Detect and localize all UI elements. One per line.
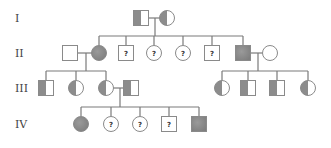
male-carrier-individual [124, 81, 139, 96]
male-carrier-individual [270, 81, 285, 96]
pedigree-diagram: IIIIIIIV ??????? [0, 0, 331, 148]
square-symbol-icon [39, 81, 54, 96]
female-unknown-individual: ? [147, 46, 162, 61]
female-unknown-individual: ? [176, 46, 191, 61]
square-symbol-icon [134, 11, 149, 26]
square-symbol-icon [63, 46, 78, 61]
square-symbol-icon [270, 81, 285, 96]
female-carrier-individual [99, 81, 114, 96]
female-affected-individual [92, 46, 107, 61]
circle-symbol-icon [215, 81, 230, 96]
square-symbol-icon [241, 81, 256, 96]
unknown-status-mark: ? [181, 50, 185, 58]
male-affected-individual [236, 46, 251, 61]
male-unaffected-individual [63, 46, 78, 61]
unknown-status-mark: ? [210, 50, 214, 58]
circle-symbol-icon [69, 81, 84, 96]
female-affected-individual [74, 117, 89, 132]
female-unknown-individual: ? [104, 117, 119, 132]
male-unknown-individual: ? [119, 46, 134, 61]
square-symbol-icon [124, 81, 139, 96]
male-carrier-individual [134, 11, 149, 26]
circle-symbol-icon [99, 81, 114, 96]
generation-labels: IIIIIIIV [15, 12, 28, 131]
unknown-status-mark: ? [167, 121, 171, 129]
generation-label: II [15, 47, 24, 60]
square-symbol-icon [192, 117, 207, 132]
male-carrier-individual [241, 81, 256, 96]
male-unknown-individual: ? [162, 117, 177, 132]
unknown-status-mark: ? [124, 50, 128, 58]
female-carrier-individual [301, 81, 316, 96]
female-carrier-individual [69, 81, 84, 96]
square-symbol-icon [236, 46, 251, 61]
circle-symbol-icon [74, 117, 89, 132]
unknown-status-mark: ? [109, 121, 113, 129]
unknown-status-mark: ? [138, 121, 142, 129]
male-carrier-individual [39, 81, 54, 96]
generation-label: I [15, 12, 19, 25]
relationship-lines [46, 18, 308, 117]
male-unknown-individual: ? [205, 46, 220, 61]
female-carrier-individual [215, 81, 230, 96]
circle-symbol-icon [92, 46, 107, 61]
female-unaffected-individual [263, 46, 278, 61]
generation-label: IV [15, 118, 28, 131]
unknown-status-mark: ? [152, 50, 156, 58]
circle-symbol-icon [301, 81, 316, 96]
female-unknown-individual: ? [133, 117, 148, 132]
male-affected-individual [192, 117, 207, 132]
circle-symbol-icon [263, 46, 278, 61]
female-carrier-individual [160, 11, 175, 26]
generation-label: III [15, 82, 28, 95]
circle-symbol-icon [160, 11, 175, 26]
